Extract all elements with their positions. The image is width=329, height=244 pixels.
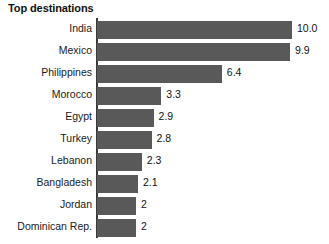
bar: [97, 87, 161, 105]
bar: [97, 65, 222, 83]
bar-value-label: 2.9: [159, 110, 174, 123]
bar: [97, 131, 152, 149]
bar-category-label: Jordan: [0, 198, 92, 211]
bar: [97, 43, 290, 61]
bar: [97, 109, 154, 127]
bar: [97, 219, 136, 237]
bar-value-label: 2.1: [143, 176, 158, 189]
chart-title: Top destinations: [8, 2, 94, 14]
bar-row: Morocco3.3: [0, 85, 329, 107]
bar-value-label: 2: [141, 220, 147, 233]
bar-category-label: Egypt: [0, 110, 92, 123]
bar: [97, 153, 142, 171]
bar-row: Egypt2.9: [0, 107, 329, 129]
bar-row: Lebanon2.3: [0, 151, 329, 173]
bar: [97, 175, 138, 193]
bar-value-label: 10.0: [297, 22, 317, 35]
bar-category-label: Dominican Rep.: [0, 220, 92, 233]
bar-category-label: Mexico: [0, 44, 92, 57]
bar-row: Dominican Rep.2: [0, 217, 329, 239]
bar-category-label: Turkey: [0, 132, 92, 145]
bar-value-label: 9.9: [295, 44, 310, 57]
bar-category-label: Bangladesh: [0, 176, 92, 189]
bar-category-label: Morocco: [0, 88, 92, 101]
bar-row: Bangladesh2.1: [0, 173, 329, 195]
bar: [97, 197, 136, 215]
bar-row: India10.0: [0, 19, 329, 41]
bar-chart: Top destinations India10.0Mexico9.9Phili…: [0, 0, 329, 244]
bar-category-label: India: [0, 22, 92, 35]
bar-value-label: 2.3: [147, 154, 162, 167]
bar-category-label: Lebanon: [0, 154, 92, 167]
bar-row: Mexico9.9: [0, 41, 329, 63]
plot-area: India10.0Mexico9.9Philippines6.4Morocco3…: [0, 18, 329, 240]
bar-value-label: 3.3: [166, 88, 181, 101]
bar-value-label: 2: [141, 198, 147, 211]
bar: [97, 21, 292, 39]
bar-row: Turkey2.8: [0, 129, 329, 151]
bar-category-label: Philippines: [0, 66, 92, 79]
bar-value-label: 6.4: [227, 66, 242, 79]
bar-value-label: 2.8: [157, 132, 172, 145]
bar-row: Philippines6.4: [0, 63, 329, 85]
bar-row: Jordan2: [0, 195, 329, 217]
